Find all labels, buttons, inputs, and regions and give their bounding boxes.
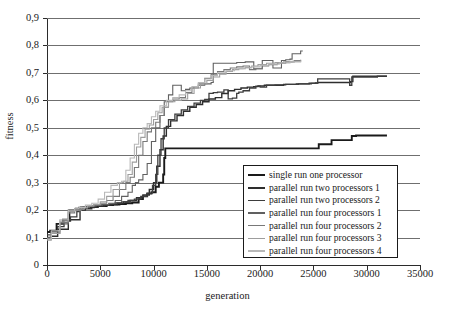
legend-swatch (248, 200, 265, 201)
x-tick (313, 266, 314, 270)
legend-swatch (248, 225, 265, 226)
x-tick (100, 266, 101, 270)
legend-label: parallel run four processors 2 (269, 221, 381, 231)
legend-item[interactable]: parallel run four processors 1 (248, 207, 393, 220)
y-tick-label: 0,6 (26, 95, 39, 105)
legend-item[interactable]: single run one processor (248, 169, 393, 182)
legend-swatch (248, 174, 265, 176)
legend-item[interactable]: parallel run two processors 2 (248, 194, 393, 207)
y-tick-label: 0,2 (26, 205, 39, 215)
y-tick-label: 0,1 (26, 233, 39, 243)
legend-item[interactable]: parallel run four processors 4 (248, 245, 393, 258)
legend-label: single run one processor (269, 170, 363, 180)
legend-swatch (248, 212, 265, 213)
y-tick-label: 0,8 (26, 40, 39, 50)
x-tick (47, 266, 48, 270)
x-axis-title: generation (0, 290, 455, 301)
chart-legend: single run one processorparallel run two… (243, 165, 398, 258)
y-tick-label: 0,5 (26, 123, 39, 133)
fitness-vs-generation-chart: fitness generation 00,10,20,30,40,50,60,… (0, 0, 455, 317)
legend-swatch (248, 187, 265, 188)
legend-item[interactable]: parallel run four processors 3 (248, 232, 393, 245)
legend-swatch (248, 250, 265, 251)
legend-label: parallel run four processors 3 (269, 233, 381, 243)
legend-item[interactable]: parallel run four processors 2 (248, 219, 393, 232)
y-tick-label: 0,9 (26, 13, 39, 23)
legend-label: parallel run two processors 2 (269, 195, 380, 205)
legend-swatch (248, 238, 265, 239)
x-tick (207, 266, 208, 270)
y-tick-label: 0,4 (26, 150, 39, 160)
legend-item[interactable]: parallel run two processors 1 (248, 182, 393, 195)
legend-label: parallel run two processors 1 (269, 183, 380, 193)
x-tick (260, 266, 261, 270)
legend-label: parallel run four processors 1 (269, 208, 381, 218)
y-tick-label: 0,7 (26, 68, 39, 78)
y-tick-label: 0,3 (26, 178, 39, 188)
x-tick (154, 266, 155, 270)
x-tick (367, 266, 368, 270)
y-axis-title: fitness (4, 112, 15, 139)
x-tick (420, 266, 421, 270)
legend-label: parallel run four processors 4 (269, 246, 381, 256)
x-axis-line (47, 265, 421, 266)
